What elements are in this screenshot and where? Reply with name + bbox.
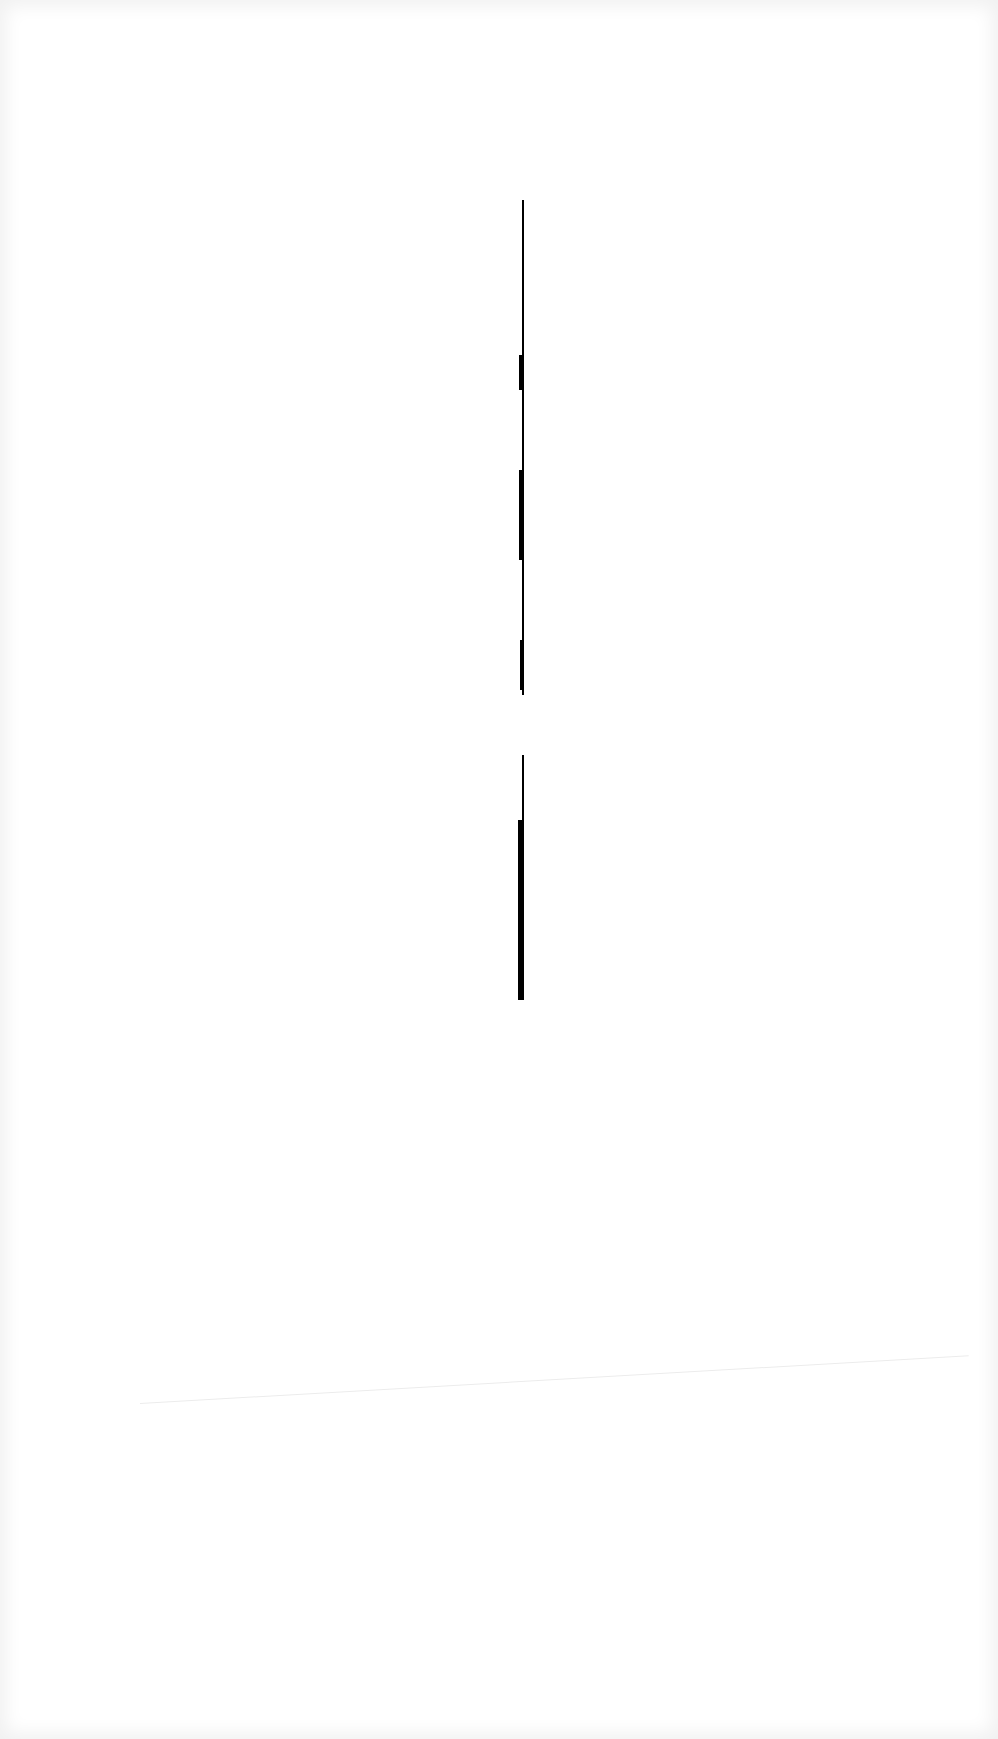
vertical-line-thick-2 — [519, 470, 523, 560]
vertical-line-top — [522, 200, 524, 695]
vertical-line-thick-1 — [519, 355, 523, 390]
scan-frame — [0, 0, 998, 1739]
vertical-line-thick-3 — [520, 640, 523, 690]
vertical-line-thick-4 — [518, 820, 524, 1000]
